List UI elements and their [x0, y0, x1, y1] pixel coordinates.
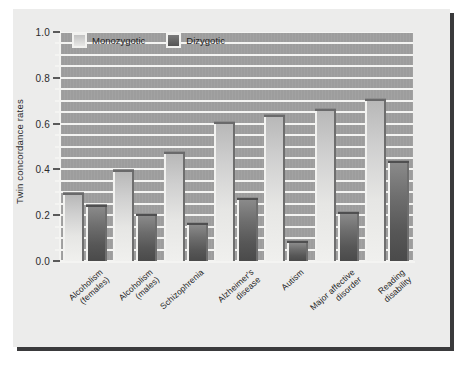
- y-tick-minor: [55, 42, 60, 44]
- plot-area: [61, 32, 413, 261]
- bar-group: [63, 32, 107, 261]
- bar-group: [113, 32, 157, 261]
- y-tick-label: 0.6: [35, 118, 50, 129]
- bar-monozygotic[interactable]: [214, 121, 235, 261]
- y-axis-title: Twin concordance rates: [14, 67, 25, 237]
- y-tick-major: [53, 260, 60, 262]
- y-tick-major: [53, 214, 60, 216]
- bar-monozygotic[interactable]: [164, 151, 185, 261]
- y-tick-minor: [55, 226, 60, 228]
- bar-dizygotic[interactable]: [338, 211, 359, 261]
- bar-group: [164, 32, 208, 261]
- bar-body: [287, 243, 308, 261]
- bar-body: [315, 111, 336, 261]
- bar-body: [63, 195, 84, 261]
- y-tick-label: 0.8: [35, 72, 50, 83]
- y-tick-minor: [55, 237, 60, 239]
- y-tick-minor: [55, 157, 60, 159]
- bar-body: [136, 216, 157, 261]
- bar-dizygotic[interactable]: [86, 204, 107, 261]
- bar-body: [86, 207, 107, 261]
- y-tick-minor: [55, 146, 60, 148]
- bar-series-container: [61, 32, 413, 261]
- y-tick-minor: [55, 54, 60, 56]
- y-tick-label: 0.0: [35, 256, 50, 267]
- bar-body: [388, 163, 409, 261]
- y-tick-minor: [55, 180, 60, 182]
- bar-group: [264, 32, 308, 261]
- bar-dizygotic[interactable]: [287, 240, 308, 261]
- y-tick-label: 0.2: [35, 210, 50, 221]
- y-tick-major: [53, 31, 60, 33]
- bar-body: [164, 154, 185, 261]
- legend-swatch-mz: [72, 33, 87, 48]
- bar-body: [264, 117, 285, 261]
- y-tick-major: [53, 123, 60, 125]
- y-tick-minor: [55, 249, 60, 251]
- y-tick-minor: [55, 134, 60, 136]
- bar-body: [113, 172, 134, 261]
- y-tick-minor: [55, 65, 60, 67]
- bar-group: [365, 32, 409, 261]
- bar-group: [315, 32, 359, 261]
- y-tick-minor: [55, 111, 60, 113]
- bar-body: [214, 124, 235, 261]
- y-tick-minor: [55, 88, 60, 90]
- y-tick-major: [53, 168, 60, 170]
- bar-dizygotic[interactable]: [388, 160, 409, 261]
- bar-group: [214, 32, 258, 261]
- y-tick-minor: [55, 191, 60, 193]
- legend-label: Monozygotic: [92, 35, 145, 46]
- x-axis-line: [59, 261, 415, 263]
- figure-root: 0.00.20.40.60.81.0 Twin concordance rate…: [0, 0, 463, 387]
- legend-item[interactable]: Dizygotic: [166, 33, 225, 48]
- bar-body: [187, 225, 208, 261]
- y-tick-major: [53, 77, 60, 79]
- y-tick-minor: [55, 100, 60, 102]
- bar-monozygotic[interactable]: [264, 114, 285, 261]
- chart-legend: MonozygoticDizygotic: [72, 33, 225, 48]
- y-tick-label: 1.0: [35, 27, 50, 38]
- bar-dizygotic[interactable]: [187, 222, 208, 261]
- y-tick-label: 0.4: [35, 164, 50, 175]
- y-tick-minor: [55, 203, 60, 205]
- bar-monozygotic[interactable]: [365, 98, 386, 261]
- bar-body: [237, 200, 258, 261]
- legend-swatch-dz: [166, 33, 181, 48]
- bar-dizygotic[interactable]: [237, 197, 258, 261]
- bar-body: [338, 214, 359, 261]
- bar-monozygotic[interactable]: [63, 192, 84, 261]
- legend-item[interactable]: Monozygotic: [72, 33, 145, 48]
- bar-dizygotic[interactable]: [136, 213, 157, 261]
- legend-label: Dizygotic: [186, 35, 225, 46]
- bar-monozygotic[interactable]: [113, 169, 134, 261]
- bar-monozygotic[interactable]: [315, 108, 336, 261]
- bar-body: [365, 101, 386, 261]
